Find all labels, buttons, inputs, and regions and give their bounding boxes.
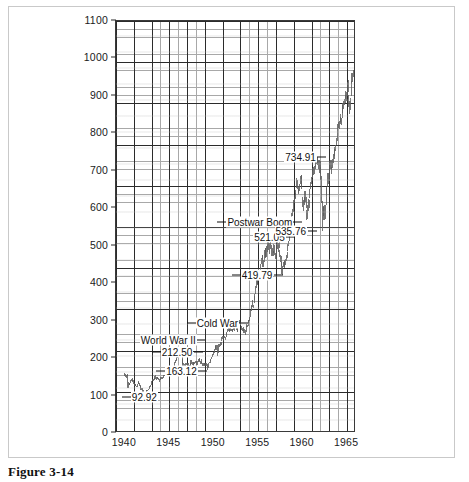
y-axis-tick-label: 700 [90,164,108,176]
y-axis-tick-label: 1000 [84,51,108,63]
chart-annotation: 212.50 [161,347,194,358]
y-axis-tick-mark [111,94,116,95]
chart-annotation: Cold War [196,318,239,329]
y-axis-tick-mark [111,432,116,433]
x-axis-tick-label: 1955 [245,436,269,448]
chart-annotation: 92.92 [131,392,158,403]
chart-annotation: 535.76 [275,226,308,237]
y-axis-tick-mark [111,282,116,283]
y-axis-tick-mark [111,357,116,358]
y-axis-tick-mark [111,132,116,133]
figure-caption: Figure 3-14 [8,464,74,482]
y-axis-tick-label: 200 [90,351,108,363]
y-axis-tick-mark [111,319,116,320]
y-axis-tick-label: 600 [90,201,108,213]
annotation-leader-line [317,156,326,157]
y-axis-tick-label: 900 [90,89,108,101]
y-axis-tick-mark [111,244,116,245]
x-axis-tick-label: 1950 [201,436,225,448]
chart-annotation: World War II [140,335,197,346]
figure-page: 010020030040050060070080090010001100 194… [0,0,469,482]
y-axis-tick-mark [111,57,116,58]
annotation-leader-line [152,352,161,353]
y-axis-tick-label: 400 [90,276,108,288]
y-axis-tick-label: 1100 [85,14,108,26]
annotation-leader-line [232,274,241,275]
x-axis-tick-label: 1960 [290,436,314,448]
chart-annotation: 419.79 [241,269,274,280]
annotation-leader-line [122,397,131,398]
y-axis-tick-label: 800 [90,126,108,138]
annotation-leader-line [187,323,196,324]
y-axis-tick-label: 300 [90,314,108,326]
annotation-leader-line [293,222,302,223]
y-axis-tick-mark [111,207,116,208]
annotation-leader-line [156,370,165,371]
annotation-leader-line [274,274,283,275]
y-axis-tick-mark [111,20,116,21]
y-axis-tick-label: 500 [90,239,108,251]
y-axis-tick-mark [111,169,116,170]
chart-annotation: 163.12 [165,365,198,376]
annotation-leader-line [198,370,207,371]
y-axis-tick-mark [111,394,116,395]
annotation-leader-line [217,222,226,223]
x-axis-tick-label: 1940 [112,436,136,448]
chart-annotation: 734.91 [284,151,317,162]
x-axis-tick-label: 1945 [156,436,180,448]
y-axis-tick-label: 100 [90,389,108,401]
x-axis-tick-label: 1965 [334,436,358,448]
y-axis-tick-label: 0 [102,426,108,438]
annotation-leader-line [194,352,203,353]
annotation-leader-line [239,323,248,324]
annotation-leader-line [197,340,206,341]
annotation-leader-line [308,231,317,232]
